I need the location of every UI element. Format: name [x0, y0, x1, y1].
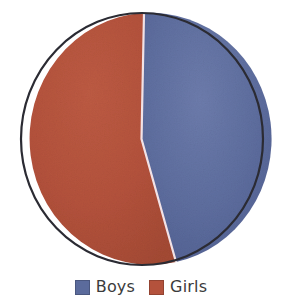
- legend-label-boys: Boys: [96, 279, 135, 295]
- pie-chart-area: [0, 0, 282, 270]
- legend-item-girls[interactable]: Girls: [149, 279, 207, 295]
- legend-label-girls: Girls: [170, 279, 207, 295]
- legend-swatch-boys-icon: [75, 280, 90, 295]
- chart-legend: Boys Girls: [0, 272, 282, 302]
- chart-page: Boys Girls: [0, 0, 282, 307]
- legend-item-boys[interactable]: Boys: [75, 279, 135, 295]
- pie-chart-svg: [0, 0, 282, 270]
- legend-swatch-girls-icon: [149, 280, 164, 295]
